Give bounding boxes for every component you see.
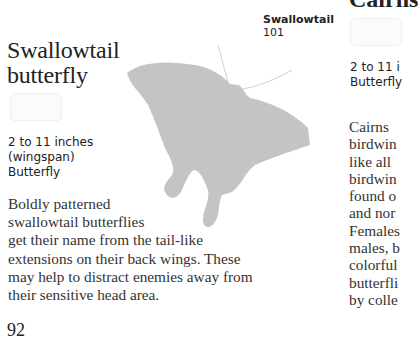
entry-title-line1: Swallowtail [7,37,119,63]
silhouette-number: 101 [263,26,334,39]
body-line: their sensitive head area. [8,286,253,304]
faded-stamp-icon [10,93,62,121]
right-facts-block: 2 to 11 i Butterfly [350,60,402,90]
right-entry-title: Cairns [349,0,418,12]
body-line: birdwin [349,170,400,187]
entry-title: Swallowtail butterfly [7,38,119,88]
body-line: birdwin [349,135,400,152]
body-line: like all [349,153,400,170]
type-fact: Butterfly [8,165,93,180]
body-line: butterfli [349,274,400,291]
page-number: 92 [7,320,25,340]
facts-block: 2 to 11 inches (wingspan) Butterfly [8,135,93,180]
entry-title-line2: butterfly [7,62,88,88]
butterfly-silhouette-icon [120,40,310,240]
faded-stamp-icon [350,18,402,46]
silhouette-name: Swallowtail [263,13,334,26]
body-line: Cairns [349,118,400,135]
right-size-fact: 2 to 11 i [350,60,402,75]
size-note: (wingspan) [8,150,93,165]
body-line: extensions on their back wings. These [8,250,253,268]
body-line: colorful [349,256,400,273]
body-line: Females [349,222,400,239]
body-line: found o [349,187,400,204]
body-line: males, b [349,239,400,256]
right-entry-body: Cairns birdwin like all birdwin found o … [349,118,400,308]
body-line: by colle [349,291,400,308]
size-fact: 2 to 11 inches [8,135,93,150]
right-type-fact: Butterfly [350,75,402,90]
body-line: may help to distract enemies away from [8,268,253,286]
body-line: and nor [349,204,400,221]
silhouette-label: Swallowtail 101 [263,13,334,39]
